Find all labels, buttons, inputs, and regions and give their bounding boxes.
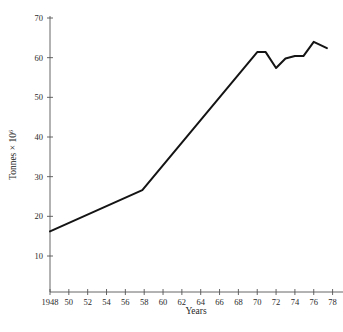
x-tick-label: 72 bbox=[272, 297, 281, 307]
x-tick-label: 66 bbox=[215, 297, 224, 307]
y-axis-title: Tonnes × 106 bbox=[7, 130, 18, 180]
y-tick-label: 50 bbox=[35, 92, 44, 102]
data-line-production bbox=[50, 42, 327, 232]
x-tick-label: 50 bbox=[65, 297, 74, 307]
y-axis-title-text: Tonnes × 10 bbox=[8, 133, 18, 180]
x-tick-label: 52 bbox=[83, 297, 92, 307]
y-tick-label: 60 bbox=[35, 53, 44, 63]
x-tick-label: 60 bbox=[159, 297, 168, 307]
y-tick-label: 40 bbox=[35, 132, 44, 142]
x-tick-label: 58 bbox=[140, 297, 149, 307]
x-tick-label: 74 bbox=[291, 297, 300, 307]
x-tick-label: 54 bbox=[102, 297, 111, 307]
x-axis-title: Years bbox=[185, 306, 207, 316]
y-axis-title-exponent: 6 bbox=[7, 130, 14, 133]
x-tick-label: 68 bbox=[234, 297, 243, 307]
x-tick-label: 78 bbox=[328, 297, 337, 307]
y-tick-label: 10 bbox=[35, 251, 44, 261]
x-tick-label: 70 bbox=[253, 297, 262, 307]
x-tick-label: 1948 bbox=[42, 297, 59, 307]
y-tick-label: 20 bbox=[35, 211, 44, 221]
chart-container: 70605040302010 1948505254565860626466687… bbox=[0, 0, 343, 332]
y-tick-label: 70 bbox=[35, 13, 44, 23]
x-tick-label: 76 bbox=[309, 297, 318, 307]
y-tick-label: 30 bbox=[35, 172, 44, 182]
x-tick-label: 56 bbox=[121, 297, 130, 307]
line-chart: 70605040302010 1948505254565860626466687… bbox=[0, 0, 343, 332]
